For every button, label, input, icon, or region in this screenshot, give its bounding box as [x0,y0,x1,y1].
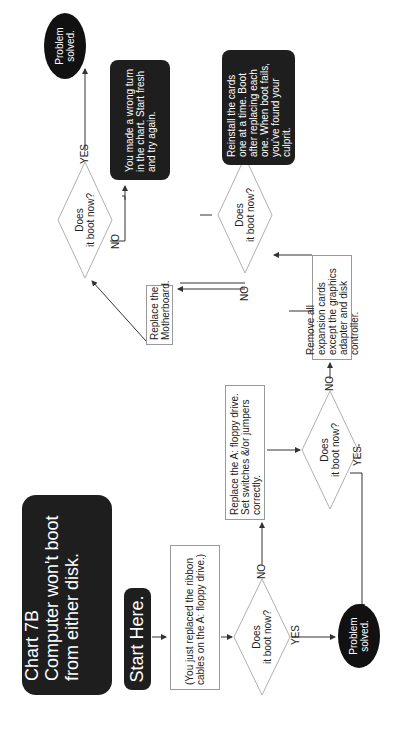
d1-no-label: NO [256,564,267,579]
reinstall-cards-box: Reinstall the cards one at a time. Boot … [222,50,295,165]
replace-floppy-text: Replace the A: floppy drive. Set switche… [229,390,262,515]
remove-cards-text: Remove all expansion cards except the gr… [305,260,360,355]
chart-title-line3: from either disk. [62,553,82,681]
wrong-turn-text: You made a wrong turn in the chart. Star… [124,68,157,172]
decision-1-text: Does it boot now? [251,607,273,667]
d3-no-label: NO [239,286,250,301]
replace-floppy-box: Replace the A: floppy drive. Set switche… [225,385,265,520]
decision-4-line1: Does [74,190,85,250]
decision-2-line1: Does [319,420,330,480]
decision-3-line2: it boot now? [245,185,256,245]
decision-1-line2: it boot now? [262,607,273,667]
solved-2-line1: Problem [54,27,65,64]
solved-1-line2: solved. [359,620,370,652]
decision-3-line1: Does [234,185,245,245]
context-text: (You just replaced the ribbon cables on … [184,550,206,685]
replace-motherboard-text: Replace the Motherboard. [149,281,171,340]
solved-1-line1: Problem [348,617,359,654]
remove-cards-box: Remove all expansion cards except the gr… [312,255,352,360]
d2-yes-label: YES [352,446,363,466]
decision-2-line2: it boot now? [330,420,341,480]
chart-title-line2: Computer won't boot [42,515,62,681]
chart-title-box: Chart 7B Computer won't boot from either… [22,495,112,695]
decision-4-line2: it boot now? [85,190,96,250]
d1-yes-label: YES [290,625,301,645]
start-here-box: Start Here. [124,588,151,690]
wrong-turn-box: You made a wrong turn in the chart. Star… [110,60,170,180]
replace-motherboard-box: Replace the Motherboard. [146,285,173,345]
d2-no-label: NO [324,376,335,391]
problem-solved-terminal-1: Problem solved. [338,604,380,668]
reinstall-cards-text: Reinstall the cards one at a time. Boot … [226,58,292,157]
d4-no-label: NO [110,234,121,249]
problem-solved-terminal-2: Problem solved. [44,13,86,79]
d4-yes-label: YES [79,144,90,164]
decision-1-line1: Does [251,607,262,667]
start-here-label: Start Here. [127,595,148,682]
decision-4-text: Does it boot now? [74,190,96,250]
chart-title-line1: Chart 7B [22,610,42,681]
solved-2-line2: solved. [65,30,76,62]
decision-3-text: Does it boot now? [234,185,256,245]
context-box: (You just replaced the ribbon cables on … [170,545,220,690]
flowchart-canvas: Chart 7B Computer won't boot from either… [0,0,397,741]
decision-2-text: Does it boot now? [319,420,341,480]
